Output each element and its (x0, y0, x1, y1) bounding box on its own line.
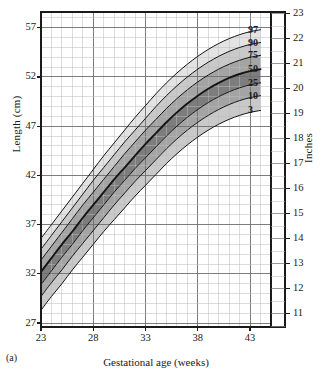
x-axis-tick-label: 38 (186, 333, 210, 343)
percentile-label-75: 75 (248, 50, 258, 60)
y-axis-left-title: Length (cm) (10, 64, 22, 184)
percentile-label-25: 25 (248, 78, 258, 88)
panel-label: (a) (6, 352, 17, 363)
percentile-label-50: 50 (248, 64, 258, 74)
y-axis-right-tick-label: 12 (293, 283, 317, 293)
growth-chart-figure: 2732374247525711121314151617181920212223… (0, 0, 320, 377)
y-axis-right-title: Inches (302, 88, 314, 208)
x-axis-tick-label: 43 (238, 333, 262, 343)
x-axis-tick-label: 23 (29, 333, 53, 343)
y-axis-right-tick-label: 23 (293, 8, 317, 18)
percentile-label-97: 97 (248, 25, 258, 35)
y-axis-right-tick-label: 11 (293, 308, 317, 318)
x-axis-title: Gestational age (weeks) (41, 356, 271, 368)
y-axis-left-tick-label: 37 (12, 219, 36, 229)
percentile-label-3: 3 (248, 105, 253, 115)
y-axis-right-tick-label: 22 (293, 33, 317, 43)
y-axis-left-tick-label: 27 (12, 318, 36, 328)
y-axis-right-tick-label: 21 (293, 58, 317, 68)
percentile-label-90: 90 (248, 38, 258, 48)
y-axis-right-tick-label: 14 (293, 233, 317, 243)
y-axis-right-tick-label: 15 (293, 208, 317, 218)
percentile-label-10: 10 (248, 91, 258, 101)
x-axis-tick-label: 33 (134, 333, 158, 343)
percentile-chart-plot (0, 0, 320, 377)
y-axis-right-tick-label: 13 (293, 258, 317, 268)
y-axis-left-tick-label: 57 (12, 22, 36, 32)
y-axis-left-tick-label: 32 (12, 268, 36, 278)
x-axis-tick-label: 28 (81, 333, 105, 343)
